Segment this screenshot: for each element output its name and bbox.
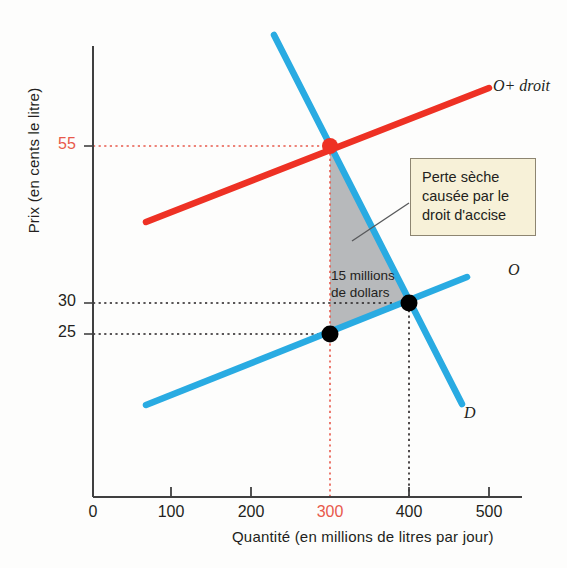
chart-plot-area — [0, 0, 567, 568]
callout-line-3: droit d'accise — [422, 206, 525, 225]
triangle-note-line-1: 15 millions — [331, 268, 423, 285]
x-axis-title: Quantité (en millions de litres par jour… — [232, 528, 494, 545]
y-tick-label-25: 25 — [50, 323, 84, 341]
x-tick-label-200: 200 — [231, 503, 271, 521]
triangle-note-line-2: de dollars — [331, 285, 423, 302]
x-tick-label-0: 0 — [78, 503, 108, 521]
callout-line-2: causée par le — [422, 187, 525, 206]
x-tick-label-400: 400 — [389, 503, 429, 521]
deadweight-loss-value-label: 15 millions de dollars — [331, 268, 423, 302]
demand-curve-label: D — [464, 404, 476, 422]
y-tick-label-55: 55 — [50, 135, 84, 153]
economics-supply-demand-chart: Prix (en cents le litre) Quantité (en mi… — [0, 0, 567, 568]
x-tick-label-500: 500 — [469, 503, 509, 521]
x-tick-label-300: 300 — [310, 503, 350, 521]
supply-curve-label: O — [508, 261, 520, 279]
y-tick-label-30: 30 — [50, 292, 84, 310]
point-supply-price-after-tax — [322, 326, 339, 343]
callout-line-1: Perte sèche — [422, 168, 525, 187]
point-equilibrium-with-tax — [322, 138, 338, 154]
supply-plus-tax-curve-label: O+ droit — [493, 77, 550, 95]
deadweight-loss-callout: Perte sèche causée par le droit d'accise — [410, 158, 536, 236]
x-tick-label-100: 100 — [151, 503, 191, 521]
y-axis-title: Prix (en cents le litre) — [25, 56, 42, 266]
